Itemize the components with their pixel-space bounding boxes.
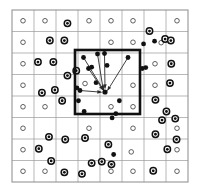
marker-open-circle <box>109 104 114 109</box>
marker-open-circle <box>129 150 134 155</box>
marker-bullseye-core <box>66 74 69 77</box>
arrow-segment <box>105 54 106 89</box>
marker-open-circle <box>83 81 88 86</box>
marker-open-circle <box>131 83 136 88</box>
figure-container <box>0 0 200 194</box>
marker-bullseye-core <box>165 110 168 113</box>
marker-bullseye-core <box>169 39 172 42</box>
marker-bullseye-core <box>37 147 40 150</box>
marker-open-circle <box>131 104 136 109</box>
marker-bullseye-core <box>148 30 151 33</box>
arrow-convergence-point <box>102 89 107 94</box>
marker-bullseye-core <box>164 38 167 41</box>
grid-scatter-figure <box>0 0 200 194</box>
marker-bullseye-core <box>84 137 87 140</box>
marker-bullseye-core <box>169 82 172 85</box>
marker-bullseye-core <box>50 160 53 163</box>
marker-open-circle <box>43 104 48 109</box>
marker-filled-dot <box>152 39 157 44</box>
arrow-source-point <box>102 51 107 56</box>
marker-filled-dot <box>76 98 81 103</box>
marker-open-circle <box>175 18 180 23</box>
marker-bullseye-core <box>110 163 113 166</box>
marker-open-circle <box>175 169 180 174</box>
marker-bullseye-core <box>81 172 84 175</box>
marker-bullseye-core <box>61 99 64 102</box>
marker-open-circle <box>109 169 114 174</box>
marker-bullseye-core <box>152 169 155 172</box>
marker-bullseye-core <box>63 171 66 174</box>
marker-bullseye-core <box>52 61 55 64</box>
marker-bullseye-core <box>63 39 66 42</box>
marker-filled-dot <box>110 116 115 121</box>
marker-bullseye-core <box>37 61 40 64</box>
marker-open-circle <box>21 61 26 66</box>
marker-bullseye-core <box>90 162 93 165</box>
marker-open-circle <box>43 18 48 23</box>
marker-bullseye-core <box>161 119 164 122</box>
marker-bullseye-core <box>154 98 157 101</box>
marker-bullseye-core <box>66 22 69 25</box>
arrow-source-point <box>126 55 131 60</box>
marker-open-circle <box>131 18 136 23</box>
marker-open-circle <box>21 169 26 174</box>
marker-open-circle <box>21 104 26 109</box>
marker-bullseye-core <box>170 62 173 65</box>
marker-open-circle <box>131 169 136 174</box>
marker-open-circle <box>21 83 26 88</box>
marker-bullseye-core <box>154 133 157 136</box>
marker-filled-dot <box>105 63 110 68</box>
marker-bullseye-core <box>48 135 51 138</box>
arrow-source-point <box>86 66 91 71</box>
marker-open-circle <box>175 126 180 131</box>
marker-open-circle <box>153 83 158 88</box>
marker-bullseye-core <box>48 39 51 42</box>
marker-bullseye-core <box>64 138 67 141</box>
marker-open-circle <box>87 18 92 23</box>
marker-bullseye-core <box>41 91 44 94</box>
marker-bullseye-core <box>174 117 177 120</box>
marker-filled-dot <box>141 42 146 47</box>
marker-open-circle <box>21 18 26 23</box>
marker-open-circle <box>153 61 158 66</box>
marker-open-circle <box>109 18 114 23</box>
marker-open-circle <box>21 126 26 131</box>
marker-open-circle <box>21 147 26 152</box>
marker-bullseye-core <box>107 143 110 146</box>
marker-open-circle <box>175 147 180 152</box>
marker-open-circle <box>131 40 136 45</box>
marker-filled-dot <box>117 98 122 103</box>
arrow-source-point <box>95 52 100 57</box>
marker-open-circle <box>21 40 26 45</box>
marker-open-circle <box>43 169 48 174</box>
marker-bullseye-core <box>175 138 178 141</box>
arrow-source-point <box>78 88 83 93</box>
marker-open-circle <box>87 126 92 131</box>
arrow-target-point <box>102 89 107 94</box>
arrow-source-point <box>81 55 86 60</box>
marker-bullseye-core <box>54 89 57 92</box>
marker-filled-dot <box>111 152 116 157</box>
marker-filled-dot <box>143 65 148 70</box>
marker-bullseye-core <box>100 160 103 163</box>
marker-open-circle <box>109 40 114 45</box>
marker-bullseye-core <box>166 148 169 151</box>
marker-open-circle <box>131 126 136 131</box>
